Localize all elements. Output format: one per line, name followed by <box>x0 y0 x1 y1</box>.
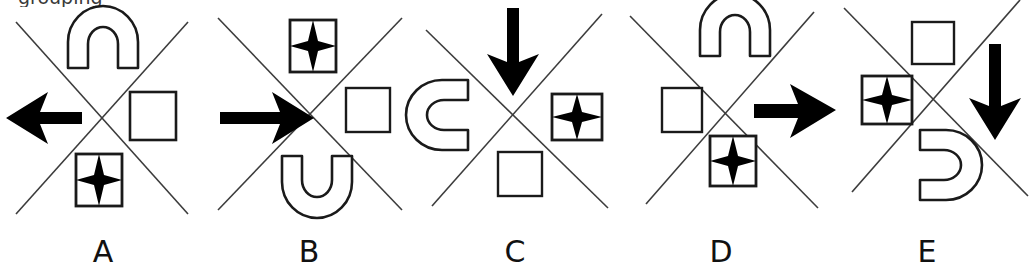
square-empty-icon <box>498 152 542 196</box>
option-panel-e[interactable]: E <box>824 0 1030 277</box>
square-empty-icon <box>346 88 390 132</box>
option-label-b: B <box>206 232 412 272</box>
arch-down-icon <box>282 156 352 218</box>
answer-options-figure: grouping <box>0 0 1030 277</box>
arrow-down-icon <box>969 44 1021 140</box>
arch-right-icon <box>406 80 468 150</box>
star-in-square-icon <box>552 94 602 140</box>
square-empty-icon <box>662 88 702 132</box>
panel-b-diagram <box>206 0 412 230</box>
option-panel-d[interactable]: D <box>618 0 824 277</box>
star-in-square-icon <box>290 20 336 72</box>
option-label-a: A <box>0 232 206 272</box>
option-panel-b[interactable]: B <box>206 0 412 277</box>
arrow-left-icon <box>6 92 82 144</box>
arrow-right-icon <box>220 92 314 144</box>
panel-e-diagram <box>824 0 1030 230</box>
arch-left-icon <box>920 130 982 200</box>
option-panel-a[interactable]: A <box>0 0 206 277</box>
option-panel-c[interactable]: C <box>412 0 618 277</box>
option-label-c: C <box>412 232 618 272</box>
star-in-square-icon <box>76 154 122 206</box>
option-label-e: E <box>824 232 1030 272</box>
star-in-square-icon <box>862 76 912 124</box>
panel-d-diagram <box>618 0 824 230</box>
arch-up-icon <box>68 6 138 68</box>
option-label-d: D <box>618 232 824 272</box>
square-empty-icon <box>130 92 176 140</box>
square-empty-icon <box>912 22 954 64</box>
panel-c-diagram <box>412 0 618 230</box>
panel-a-diagram <box>0 0 206 230</box>
star-in-square-icon <box>710 136 756 186</box>
arch-up-icon <box>700 0 770 56</box>
arrow-down-icon <box>487 8 539 96</box>
